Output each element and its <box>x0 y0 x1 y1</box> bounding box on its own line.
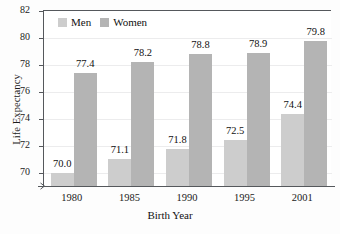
bar-men-1990 <box>166 149 189 187</box>
bar-value-label: 78.9 <box>249 38 267 49</box>
bar-men-1985 <box>108 159 131 187</box>
y-axis-tick-label: 82 <box>2 4 30 15</box>
bar-value-label: 71.8 <box>168 134 186 145</box>
bar-men-1995 <box>224 140 247 187</box>
legend-swatch-men-icon <box>58 18 67 27</box>
legend-item-men: Men <box>58 17 91 28</box>
y-axis-tick <box>39 11 44 12</box>
x-axis-tick-label: 2001 <box>292 192 313 203</box>
x-axis-tick-label: 1980 <box>61 192 82 203</box>
y-axis-tick-label: 74 <box>2 112 30 123</box>
bar-women-1985 <box>131 62 154 187</box>
bar-value-label: 71.1 <box>111 144 129 155</box>
y-axis-tick-label: 76 <box>2 85 30 96</box>
legend-label-women: Women <box>113 17 147 28</box>
bar-women-2001 <box>304 41 327 187</box>
y-axis-tick-label: 70 <box>2 166 30 177</box>
bar-value-label: 74.4 <box>284 99 302 110</box>
bar-value-label: 79.8 <box>307 26 325 37</box>
y-axis-tick <box>39 146 44 147</box>
bar-chart: Life Expectancy 70727476788082 70.077.47… <box>0 0 340 234</box>
y-axis-tick-label: 72 <box>2 139 30 150</box>
bar-men-2001 <box>281 114 304 187</box>
bar-women-1990 <box>189 54 212 187</box>
bar-men-1980 <box>51 173 74 187</box>
bar-value-label: 77.4 <box>76 58 94 69</box>
bar-value-label: 78.8 <box>191 39 209 50</box>
x-axis-tick-label: 1995 <box>234 192 255 203</box>
y-axis-tick <box>39 92 44 93</box>
plot-area: 70727476788082 70.077.471.178.271.878.87… <box>43 10 331 186</box>
bar-value-label: 78.2 <box>134 47 152 58</box>
legend: Men Women <box>58 17 147 28</box>
legend-item-women: Women <box>100 17 147 28</box>
y-axis-tick <box>39 38 44 39</box>
x-axis-title: Birth Year <box>0 209 340 221</box>
bar-value-label: 72.5 <box>226 125 244 136</box>
x-axis-line <box>38 186 335 187</box>
y-axis-tick-label: 78 <box>2 58 30 69</box>
x-axis-tick-label: 1990 <box>177 192 198 203</box>
gridline <box>44 38 332 39</box>
y-axis-tick-label: 80 <box>2 31 30 42</box>
y-axis-tick <box>39 119 44 120</box>
bar-value-label: 70.0 <box>53 158 71 169</box>
y-axis-tick <box>39 65 44 66</box>
legend-swatch-women-icon <box>100 18 109 27</box>
x-axis-tick-label: 1985 <box>119 192 140 203</box>
y-axis-tick <box>39 173 44 174</box>
bar-women-1995 <box>247 53 270 187</box>
legend-label-men: Men <box>71 17 91 28</box>
bar-women-1980 <box>74 73 97 187</box>
